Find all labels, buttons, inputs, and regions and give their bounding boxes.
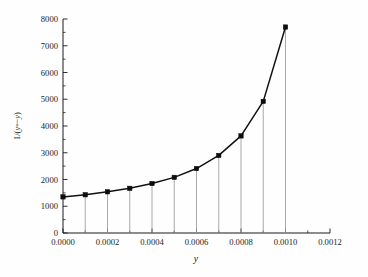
x-tick-label: 0.0006 [185,237,209,247]
figure-container: 010002000300040005000600070008000 0.0000… [0,0,368,277]
y-tick-label: 3000 [41,148,58,158]
y-tick-label: 8000 [41,14,58,24]
x-tick-label: 0.0010 [274,237,298,247]
data-point-marker [239,134,243,138]
line-chart: 010002000300040005000600070008000 0.0000… [0,0,368,277]
droplines [85,27,285,233]
y-axis-title: 1/(y*−y) [13,112,22,140]
data-point-marker [83,193,87,197]
data-point-marker [105,190,109,194]
x-tick-label: 0.0002 [96,237,120,247]
series-line-1 [63,27,286,197]
data-point-marker [217,153,221,157]
x-tick-label: 0.0008 [229,237,253,247]
data-point-marker [128,186,132,190]
data-point-marker [283,25,287,29]
data-point-marker [172,175,176,179]
y-axis-title-group: 1/(y*−y) [13,112,22,140]
x-axis-title: y [193,253,199,264]
x-tick-label: 0.0000 [51,237,75,247]
data-point-marker [194,166,198,170]
x-tick-label: 0.0012 [318,237,342,247]
y-tick-label: 6000 [41,68,58,78]
x-tick-label: 0.0004 [140,237,164,247]
y-tick-label: 4000 [41,121,58,131]
y-tick-label: 5000 [41,94,58,104]
y-tick-label: 1000 [41,201,58,211]
y-tick-label: 2000 [41,175,58,185]
data-point-marker [150,181,154,185]
data-point-markers [61,25,288,199]
data-point-marker [261,99,265,103]
data-point-marker [61,195,65,199]
y-tick-label: 7000 [41,41,58,51]
